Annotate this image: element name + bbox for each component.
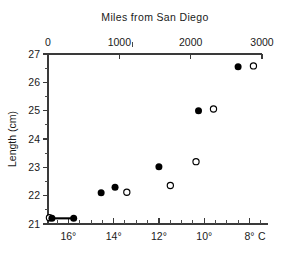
data-point-filled	[112, 184, 119, 191]
data-point-open	[250, 63, 256, 69]
bottom-axis-unit-label: C	[258, 230, 266, 242]
top-axis-tick-label: 2000	[179, 36, 203, 48]
data-point-filled	[70, 215, 77, 222]
top-axis-tick-label: 0	[45, 36, 51, 48]
data-point-filled	[155, 163, 162, 170]
scatter-plot-figure: Miles from San Diego 0100020003000 21222…	[0, 0, 281, 253]
data-point-open	[210, 106, 216, 112]
bottom-axis-tick-label: 10°	[196, 230, 212, 242]
data-point-open	[193, 159, 199, 165]
data-points-open	[46, 63, 256, 221]
y-axis-tick-labels: 21222324252627	[28, 48, 40, 230]
y-axis-tick-label: 22	[28, 189, 40, 201]
y-axis-tick-label: 26	[28, 76, 40, 88]
bottom-axis-tick-labels: 16°14°12°10°8°	[60, 230, 254, 242]
data-point-filled	[48, 215, 55, 222]
bottom-axis-ticks	[57, 218, 261, 224]
y-axis-tick-label: 27	[28, 48, 40, 60]
data-points-filled	[48, 63, 241, 222]
top-axis-tick-labels: 0100020003000	[45, 36, 274, 48]
bottom-axis-tick-label: 14°	[106, 230, 122, 242]
y-axis-tick-label: 23	[28, 161, 40, 173]
top-axis-ticks	[48, 42, 262, 59]
y-axis-tick-label: 24	[28, 133, 40, 145]
bottom-axis-tick-label: 12°	[151, 230, 167, 242]
data-point-filled	[195, 107, 202, 114]
y-axis-ticks	[43, 54, 48, 224]
data-point-open	[167, 182, 173, 188]
data-point-filled	[235, 63, 242, 70]
data-point-filled	[98, 189, 105, 196]
y-axis-title: Length (cm)	[6, 111, 18, 167]
bottom-axis-tick-label: 16°	[60, 230, 76, 242]
top-axis-tick-label: 1000	[108, 36, 132, 48]
plot-canvas: Miles from San Diego 0100020003000 21222…	[0, 0, 281, 253]
top-axis-title: Miles from San Diego	[101, 11, 208, 23]
bottom-axis-tick-label: 8°	[245, 230, 255, 242]
y-axis-tick-label: 25	[28, 104, 40, 116]
top-axis-tick-label: 3000	[250, 36, 274, 48]
data-point-open	[124, 189, 130, 195]
y-axis-tick-label: 21	[28, 218, 40, 230]
